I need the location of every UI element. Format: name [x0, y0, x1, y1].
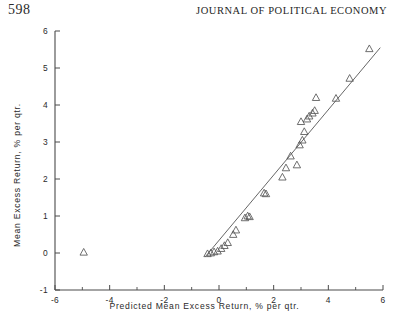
data-point-marker	[312, 94, 319, 101]
data-point-marker	[366, 45, 373, 52]
data-point-marker	[282, 164, 289, 171]
page-number: 598	[8, 2, 31, 18]
data-point-marker	[232, 226, 239, 233]
data-point-marker	[293, 161, 300, 168]
data-point-marker	[224, 239, 231, 246]
data-point-marker	[346, 75, 353, 82]
axis-tick-labels: -6-4-20246-10123456	[40, 26, 386, 305]
svg-text:0: 0	[43, 248, 48, 258]
plot-canvas: -6-4-20246-10123456	[0, 20, 409, 325]
data-point-marker	[279, 173, 286, 180]
data-point-marker	[80, 248, 87, 255]
journal-running-head: JOURNAL OF POLITICAL ECONOMY	[196, 5, 387, 16]
svg-text:1: 1	[43, 211, 48, 221]
data-points	[80, 45, 373, 257]
scatter-plot-figure: -6-4-20246-10123456 Mean Excess Return, …	[0, 20, 409, 325]
svg-text:6: 6	[43, 26, 48, 36]
svg-text:4: 4	[43, 100, 48, 110]
svg-text:3: 3	[43, 137, 48, 147]
data-point-marker	[301, 128, 308, 135]
svg-text:-1: -1	[40, 285, 48, 295]
regression-line	[205, 48, 380, 257]
svg-text:5: 5	[43, 63, 48, 73]
x-axis-title: Predicted Mean Excess Return, % per qtr.	[0, 301, 409, 311]
y-axis-title: Mean Excess Return, % per qtr.	[12, 65, 22, 285]
svg-text:2: 2	[43, 174, 48, 184]
page-root: 598 JOURNAL OF POLITICAL ECONOMY -6-4-20…	[0, 0, 409, 325]
